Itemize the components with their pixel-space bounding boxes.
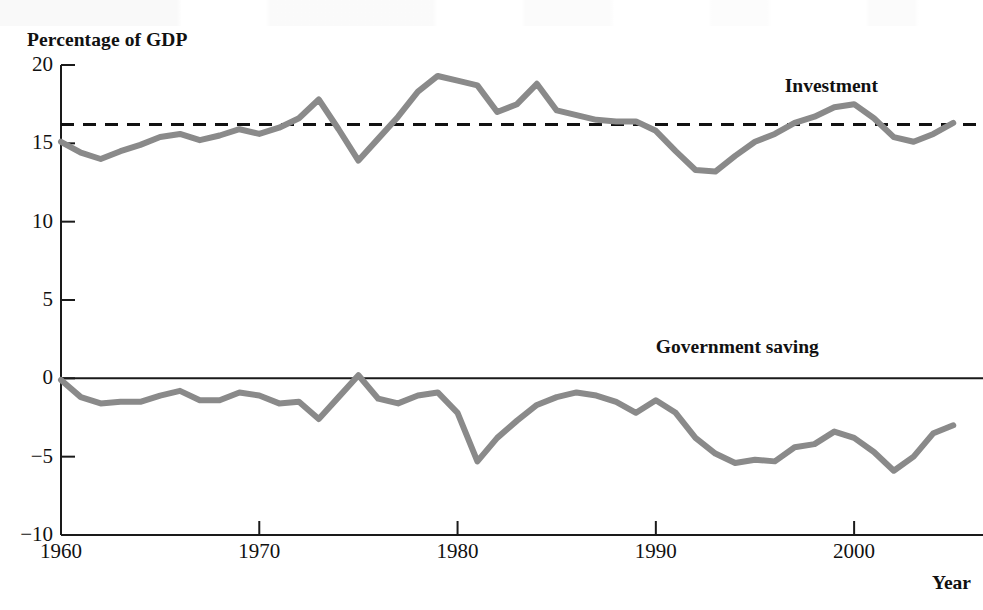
x-tick-label: 1990 (611, 541, 701, 562)
y-tick-label: 5 (0, 289, 53, 310)
series-line-government-saving (61, 375, 953, 471)
y-tick-label: 0 (0, 367, 53, 388)
y-tick-label: 15 (0, 132, 53, 153)
y-tick-label: −5 (0, 446, 53, 467)
x-tick-label: 1960 (16, 541, 106, 562)
series-label-investment: Investment (785, 75, 878, 97)
x-tick-label: 2000 (809, 541, 899, 562)
series-label-government-saving: Government saving (656, 336, 819, 358)
x-tick-label: 1970 (214, 541, 304, 562)
y-tick-label: 10 (0, 211, 53, 232)
y-tick-label: 20 (0, 54, 53, 75)
chart-figure: Percentage of GDP Year −10−5051015201960… (0, 0, 983, 610)
x-tick-label: 1980 (413, 541, 503, 562)
